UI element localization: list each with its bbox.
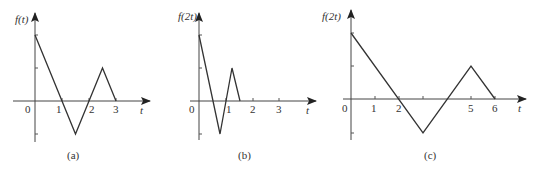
x-tick-label: 5 — [468, 102, 474, 114]
x-tick-label: 3 — [276, 103, 282, 115]
y-axis-label: f(2t) — [178, 10, 197, 23]
panel-c: f(2t) 0 1 2 5 6 t (c) — [322, 10, 526, 162]
x-tick-label: 1 — [226, 103, 232, 115]
signal-curve — [35, 35, 116, 134]
origin-label: 0 — [25, 103, 31, 115]
panel-a: f(t) 0 1 2 3 t (a) — [13, 13, 150, 162]
x-axis-label: t — [140, 104, 144, 116]
x-tick-label: 1 — [371, 102, 377, 114]
figure: f(t) 0 1 2 3 t (a) f(2t) 0 1 2 3 t (b) — [0, 0, 541, 176]
x-tick-label: 2 — [89, 103, 95, 115]
y-axis-label: f(t) — [15, 13, 29, 26]
x-tick-label: 2 — [250, 103, 256, 115]
x-axis-label: t — [518, 102, 522, 114]
x-axis-label: t — [306, 104, 310, 116]
x-tick-label: 1 — [56, 103, 62, 115]
panel-caption: (a) — [67, 149, 80, 162]
x-tick-label: 2 — [396, 102, 402, 114]
panel-caption: (b) — [238, 149, 251, 162]
y-axis-label: f(2t) — [322, 10, 341, 23]
panel-b: f(2t) 0 1 2 3 t (b) — [178, 10, 316, 162]
origin-label: 0 — [189, 103, 195, 115]
signal-curve — [351, 33, 495, 133]
signal-curve — [199, 35, 240, 134]
panel-caption: (c) — [424, 149, 437, 162]
x-tick-label: 3 — [113, 103, 119, 115]
origin-label: 0 — [342, 102, 348, 114]
x-tick-label: 6 — [492, 102, 498, 114]
